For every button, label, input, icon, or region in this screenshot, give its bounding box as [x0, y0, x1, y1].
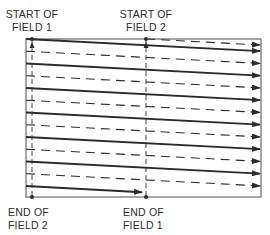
end-of-field-2-label: END OF FIELD 2 — [8, 206, 52, 232]
field-2-scan-line — [26, 76, 260, 88]
field-1-scan-line — [26, 113, 260, 125]
field-1-scan-line — [26, 88, 260, 100]
label-line: START OF — [116, 8, 176, 21]
end-field-1-dot — [144, 195, 148, 199]
field-1-scan-line — [26, 39, 260, 51]
field-1-scan-line — [26, 64, 260, 76]
start-of-field-2-label: START OF FIELD 2 — [116, 8, 176, 34]
field-1-scan-line — [26, 137, 260, 149]
label-line: END OF — [8, 206, 52, 219]
field-1-scan-line — [26, 186, 142, 192]
label-line: START OF — [2, 8, 62, 21]
start-field-1-dot — [30, 37, 34, 41]
end-field-2-dot — [30, 195, 34, 199]
field-2-scan-line — [26, 125, 260, 137]
field-2-scan-line — [26, 100, 260, 112]
label-line: FIELD 1 — [123, 219, 167, 232]
label-line: FIELD 1 — [2, 21, 62, 34]
field-2-scan-line — [26, 174, 260, 186]
field-1-scan-line — [26, 162, 260, 174]
field-2-scan-line — [146, 39, 260, 45]
interlace-diagram — [0, 0, 270, 235]
end-of-field-1-label: END OF FIELD 1 — [123, 206, 167, 232]
retrace-arrow-icon — [30, 42, 35, 48]
field-2-scan-line — [26, 149, 260, 161]
label-line: FIELD 2 — [8, 219, 52, 232]
label-line: FIELD 2 — [116, 21, 176, 34]
start-field-2-dot — [144, 37, 148, 41]
field-2-scan-line — [26, 51, 260, 63]
label-line: END OF — [123, 206, 167, 219]
start-of-field-1-label: START OF FIELD 1 — [2, 8, 62, 34]
